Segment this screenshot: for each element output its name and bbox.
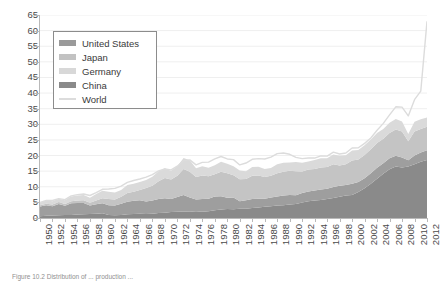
y-axis-tick-mark bbox=[34, 62, 39, 63]
x-axis-tick-label: 2008 bbox=[406, 224, 416, 245]
y-axis-tick-mark bbox=[34, 15, 39, 16]
x-axis-tick-label: 1952 bbox=[56, 224, 66, 245]
x-axis-tick-label: 1950 bbox=[44, 224, 54, 245]
x-axis-tick-mark bbox=[202, 218, 203, 222]
y-axis-tick-mark bbox=[34, 171, 39, 172]
x-axis-tick-label: 1998 bbox=[344, 224, 354, 245]
legend-item-label: United States bbox=[82, 38, 139, 49]
x-axis-tick-mark bbox=[77, 218, 78, 222]
y-axis-tick-mark bbox=[34, 93, 39, 94]
x-axis-tick-label: 1978 bbox=[219, 224, 229, 245]
x-axis-tick-mark bbox=[240, 218, 241, 222]
legend-swatch-icon bbox=[59, 68, 76, 74]
legend-item-label: China bbox=[82, 80, 107, 91]
x-axis-tick-mark bbox=[290, 218, 291, 222]
y-axis-tick-mark bbox=[34, 124, 39, 125]
x-axis-tick-mark bbox=[377, 218, 378, 222]
x-axis-tick-mark bbox=[177, 218, 178, 222]
x-axis-tick-label: 1972 bbox=[181, 224, 191, 245]
x-axis-tick-label: 2012 bbox=[431, 224, 441, 245]
x-axis-tick-label: 1956 bbox=[81, 224, 91, 245]
x-axis-tick-mark bbox=[115, 218, 116, 222]
legend-swatch-icon bbox=[59, 82, 76, 88]
y-axis-tick-mark bbox=[34, 109, 39, 110]
legend-item-japan[interactable]: Japan bbox=[59, 50, 156, 64]
legend-item-united-states[interactable]: United States bbox=[59, 36, 156, 50]
legend-item-world[interactable]: World bbox=[59, 92, 156, 106]
legend-item-label: Japan bbox=[82, 52, 108, 63]
x-axis-tick-mark bbox=[352, 218, 353, 222]
legend-swatch-icon bbox=[59, 40, 76, 46]
x-axis-tick-label: 1986 bbox=[269, 224, 279, 245]
x-axis-tick-label: 2004 bbox=[381, 224, 391, 245]
x-axis-tick-mark bbox=[215, 218, 216, 222]
legend-swatch-icon bbox=[59, 98, 76, 100]
y-axis-tick-mark bbox=[34, 187, 39, 188]
x-axis-tick-mark bbox=[52, 218, 53, 222]
x-axis-tick-label: 1960 bbox=[106, 224, 116, 245]
y-axis-tick-mark bbox=[34, 31, 39, 32]
x-axis-tick-mark bbox=[65, 218, 66, 222]
x-axis-tick-label: 1962 bbox=[119, 224, 129, 245]
x-axis-tick-label: 1964 bbox=[131, 224, 141, 245]
x-axis-tick-label: 1966 bbox=[144, 224, 154, 245]
x-axis-tick-mark bbox=[265, 218, 266, 222]
x-axis-tick-label: 1996 bbox=[331, 224, 341, 245]
x-axis-tick-mark bbox=[390, 218, 391, 222]
x-axis-tick-mark bbox=[415, 218, 416, 222]
x-axis-tick-label: 1994 bbox=[319, 224, 329, 245]
x-axis-tick-label: 1958 bbox=[94, 224, 104, 245]
y-axis-tick-mark bbox=[34, 140, 39, 141]
x-axis-tick-mark bbox=[190, 218, 191, 222]
x-axis-tick-label: 1976 bbox=[206, 224, 216, 245]
x-axis-tick-label: 1984 bbox=[256, 224, 266, 245]
x-axis-tick-mark bbox=[252, 218, 253, 222]
legend-item-china[interactable]: China bbox=[59, 78, 156, 92]
x-axis-tick-mark bbox=[340, 218, 341, 222]
area-series-group bbox=[40, 117, 427, 218]
x-axis-tick-mark bbox=[40, 218, 41, 222]
x-axis-tick-mark bbox=[315, 218, 316, 222]
x-axis-tick-label: 1980 bbox=[231, 224, 241, 245]
y-axis-tick-mark bbox=[34, 77, 39, 78]
x-axis-tick-mark bbox=[302, 218, 303, 222]
x-axis-tick-label: 2000 bbox=[356, 224, 366, 245]
x-axis-tick-label: 1992 bbox=[306, 224, 316, 245]
x-axis-tick-mark bbox=[277, 218, 278, 222]
x-axis-tick-label: 1970 bbox=[169, 224, 179, 245]
legend-item-label: World bbox=[82, 94, 107, 105]
x-axis-tick-label: 1988 bbox=[281, 224, 291, 245]
x-axis-tick-mark bbox=[165, 218, 166, 222]
x-axis-tick-label: 1974 bbox=[194, 224, 204, 245]
x-axis-tick-mark bbox=[227, 218, 228, 222]
x-axis-tick-label: 2002 bbox=[369, 224, 379, 245]
x-axis-tick-mark bbox=[327, 218, 328, 222]
x-axis-tick-label: 2006 bbox=[394, 224, 404, 245]
x-axis-tick-label: 2010 bbox=[419, 224, 429, 245]
figure-container: 05101520253035404550556065 1950195219541… bbox=[0, 0, 443, 282]
x-axis-tick-mark bbox=[365, 218, 366, 222]
x-axis-tick-label: 1982 bbox=[244, 224, 254, 245]
x-axis-tick-mark bbox=[402, 218, 403, 222]
legend-item-label: Germany bbox=[82, 66, 121, 77]
legend-item-germany[interactable]: Germany bbox=[59, 64, 156, 78]
x-axis-tick-mark bbox=[427, 218, 428, 222]
x-axis-tick-mark bbox=[140, 218, 141, 222]
x-axis-tick-label: 1968 bbox=[156, 224, 166, 245]
x-axis-tick-mark bbox=[102, 218, 103, 222]
x-axis-tick-mark bbox=[152, 218, 153, 222]
x-axis-tick-label: 1954 bbox=[69, 224, 79, 245]
legend-swatch-icon bbox=[59, 54, 76, 60]
y-axis-tick-mark bbox=[34, 156, 39, 157]
x-axis-tick-mark bbox=[90, 218, 91, 222]
y-axis-tick-mark bbox=[34, 202, 39, 203]
legend: United StatesJapanGermanyChinaWorld bbox=[53, 31, 157, 109]
y-axis-tick-mark bbox=[34, 46, 39, 47]
x-axis-tick-mark bbox=[127, 218, 128, 222]
x-axis-line bbox=[39, 218, 428, 219]
figure-caption: Figure 10.2 Distribution of ... producti… bbox=[12, 273, 432, 281]
x-axis-tick-label: 1990 bbox=[294, 224, 304, 245]
